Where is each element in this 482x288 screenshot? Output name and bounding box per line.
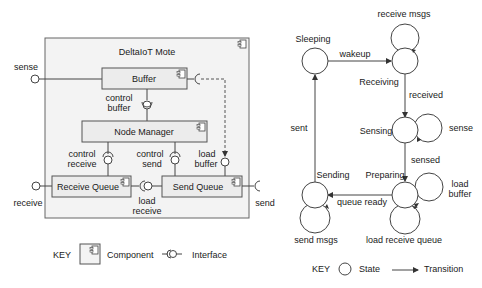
transition-receive-msgs-label: receive msgs — [377, 9, 431, 19]
state-receiving — [392, 48, 418, 74]
component-diagram: DeltaIoT Mote sense Buffer control buffe… — [13, 38, 274, 264]
transition-sense-label: sense — [449, 123, 473, 133]
transition-load-receive-queue-label: load receive queue — [366, 235, 442, 245]
control-send-label-2: send — [142, 159, 162, 169]
transition-load-buffer-label-2: buffer — [449, 189, 472, 199]
state-sensing-label: Sensing — [360, 126, 393, 136]
state-key-text: State — [359, 264, 380, 274]
interface-ball-icon — [144, 182, 152, 190]
buffer-component: Buffer — [102, 68, 187, 89]
state-sending — [302, 182, 328, 208]
state-sensing — [392, 117, 418, 143]
interface-ball-icon — [143, 101, 151, 109]
load-buffer-label-1: load — [198, 149, 215, 159]
receive-label: receive — [13, 198, 42, 208]
node-manager-label: Node Manager — [114, 127, 174, 137]
loop-load-buffer — [415, 173, 443, 201]
receive-queue-component: Receive Queue — [52, 176, 131, 197]
state-sleeping-label: Sleeping — [295, 34, 330, 44]
state-receiving-label: Receiving — [359, 77, 399, 87]
transition-wakeup-label: wakeup — [338, 49, 370, 59]
state-preparing-label: Preparing — [365, 170, 404, 180]
mote-title: DeltaIoT Mote — [119, 47, 175, 57]
control-receive-label-2: receive — [67, 159, 96, 169]
node-manager-component: Node Manager — [82, 121, 207, 142]
state-key-icon — [339, 263, 351, 275]
load-receive-label-2: receive — [132, 206, 161, 216]
load-receive-label-1: load — [138, 196, 155, 206]
transition-sent-label: sent — [290, 123, 308, 133]
component-key-text: Component — [107, 250, 154, 260]
transition-load-buffer-label-1: load — [451, 179, 468, 189]
transition-key-text: Transition — [424, 264, 463, 274]
interface-ball-icon — [221, 158, 229, 166]
send-queue-component: Send Queue — [162, 176, 242, 197]
transition-received-label: received — [409, 90, 443, 100]
state-sleeping — [302, 48, 328, 74]
state-sending-label: Sending — [316, 170, 349, 180]
load-buffer-label-2: buffer — [195, 159, 218, 169]
sense-port-icon — [31, 75, 39, 83]
state-diagram: Sleeping receive msgs Receiving wakeup r… — [290, 9, 473, 275]
buffer-label: Buffer — [132, 74, 156, 84]
interface-key-icon — [162, 250, 182, 258]
send-queue-label: Send Queue — [173, 182, 224, 192]
transition-send-msgs-label: send msgs — [294, 235, 338, 245]
receive-port-icon — [32, 182, 40, 190]
transition-sensed-label: sensed — [411, 155, 440, 165]
state-key-label: KEY — [312, 264, 330, 274]
send-socket-icon — [255, 181, 260, 191]
component-key-icon — [80, 244, 100, 264]
control-receive-label-1: control — [68, 149, 95, 159]
interface-ball-icon — [104, 156, 112, 164]
control-send-label-1: control — [136, 149, 163, 159]
interface-ball-icon — [171, 156, 179, 164]
component-key-label: KEY — [53, 250, 71, 260]
sense-label: sense — [14, 62, 38, 72]
send-label: send — [255, 198, 275, 208]
control-buffer-label-2: buffer — [108, 103, 131, 113]
interface-key-text: Interface — [192, 250, 227, 260]
receive-queue-label: Receive Queue — [57, 182, 119, 192]
transition-queue-ready-label: queue ready — [337, 197, 388, 207]
control-buffer-label-1: control — [105, 93, 132, 103]
